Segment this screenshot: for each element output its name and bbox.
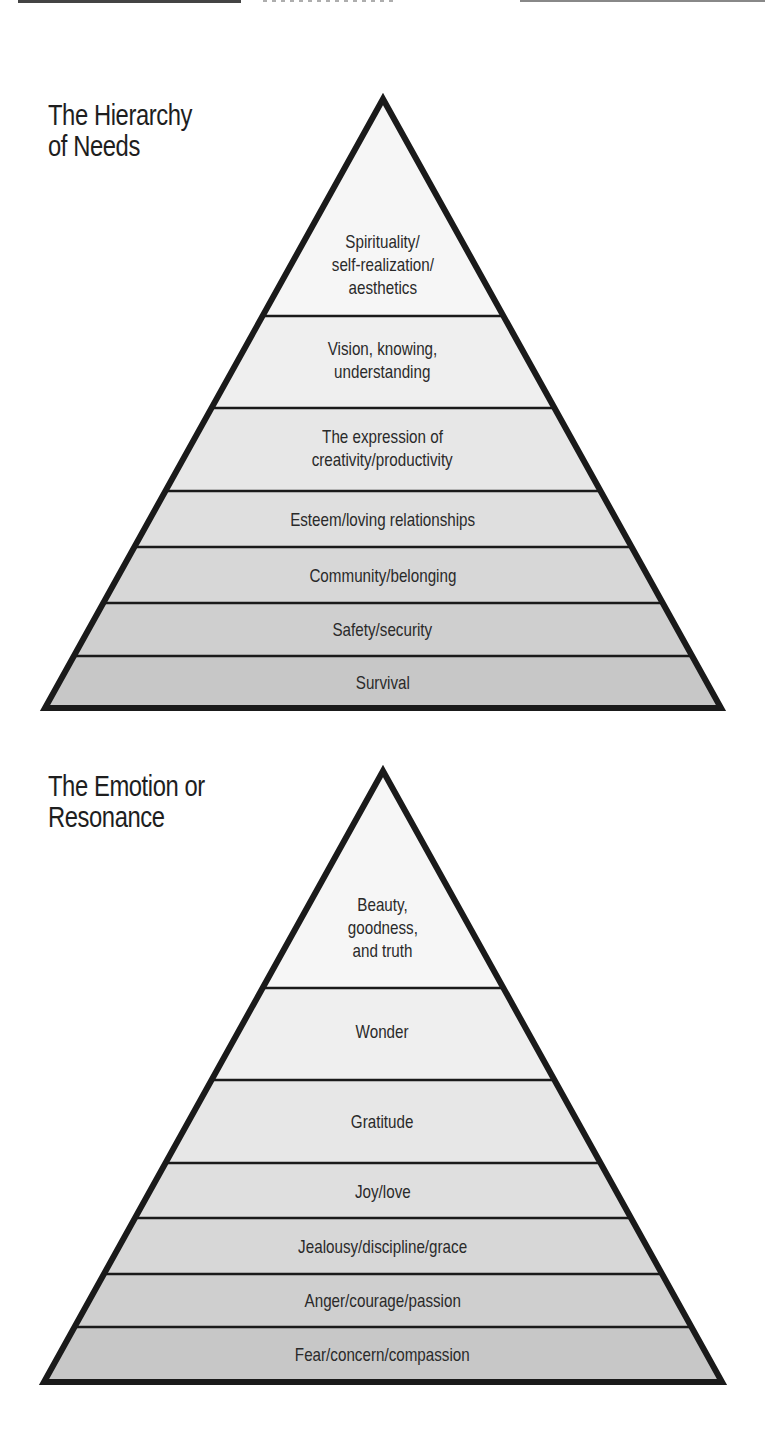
- band-label-beauty: Beauty, goodness, and truth: [0, 893, 765, 962]
- label-line: The expression of: [322, 425, 443, 448]
- pyramid-emotion-resonance: Beauty, goodness, and truth Wonder Grati…: [0, 672, 765, 1392]
- band-label-anger: Anger/courage/passion: [0, 1289, 765, 1312]
- label-line: Joy/love: [355, 1180, 411, 1203]
- label-line: self-realization/: [331, 253, 433, 276]
- band-label-safety: Safety/security: [0, 618, 765, 641]
- band-label-jealousy: Jealousy/discipline/grace: [0, 1235, 765, 1258]
- label-line: Vision, knowing,: [328, 337, 438, 360]
- label-line: Esteem/loving relationships: [290, 508, 475, 531]
- label-line: Wonder: [356, 1020, 409, 1043]
- label-line: Gratitude: [351, 1110, 414, 1133]
- band-label-fear: Fear/concern/compassion: [0, 1343, 765, 1366]
- label-line: Spirituality/: [345, 230, 419, 253]
- label-line: Beauty,: [357, 893, 407, 916]
- label-line: creativity/productivity: [312, 448, 453, 471]
- pyramid-hierarchy-of-needs: Spirituality/ self-realization/ aestheti…: [0, 0, 765, 720]
- label-line: Community/belonging: [309, 564, 456, 587]
- band-label-joy: Joy/love: [0, 1180, 765, 1203]
- band-label-gratitude: Gratitude: [0, 1110, 765, 1133]
- label-line: Anger/courage/passion: [304, 1289, 460, 1312]
- band-label-creativity: The expression of creativity/productivit…: [0, 425, 765, 471]
- label-line: and truth: [353, 939, 413, 962]
- band-label-esteem: Esteem/loving relationships: [0, 508, 765, 531]
- label-line: understanding: [334, 360, 430, 383]
- label-line: goodness,: [347, 916, 417, 939]
- label-line: aesthetics: [348, 276, 416, 299]
- label-line: Safety/security: [333, 618, 433, 641]
- label-line: Jealousy/discipline/grace: [298, 1235, 467, 1258]
- band-label-wonder: Wonder: [0, 1020, 765, 1043]
- label-line: Fear/concern/compassion: [295, 1343, 470, 1366]
- band-label-spirituality: Spirituality/ self-realization/ aestheti…: [0, 230, 765, 299]
- band-label-vision: Vision, knowing, understanding: [0, 337, 765, 383]
- band-label-community: Community/belonging: [0, 564, 765, 587]
